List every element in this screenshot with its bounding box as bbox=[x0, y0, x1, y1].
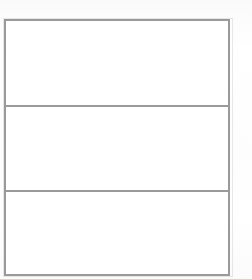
table-row bbox=[5, 191, 229, 275]
table-cell-row1-col1[interactable] bbox=[5, 20, 229, 106]
table-container bbox=[4, 19, 230, 274]
table-row bbox=[5, 20, 229, 106]
table-cell-text bbox=[6, 21, 228, 105]
table-row bbox=[5, 106, 229, 191]
blank-table bbox=[4, 19, 230, 276]
document-page bbox=[0, 0, 252, 279]
table-body bbox=[5, 20, 229, 275]
table-cell-text bbox=[6, 107, 228, 190]
table-cell-text bbox=[6, 192, 228, 274]
table-cell-row2-col1[interactable] bbox=[5, 106, 229, 191]
table-cell-row3-col1[interactable] bbox=[5, 191, 229, 275]
